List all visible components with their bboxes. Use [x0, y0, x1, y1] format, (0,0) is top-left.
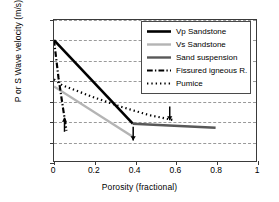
arrow-up-low-porosity — [62, 118, 67, 132]
x-axis-tick-label: 0 — [38, 166, 68, 175]
legend-label: Vp Sandstone — [176, 27, 226, 36]
x-axis-tick-label: 0.4 — [120, 166, 150, 175]
legend-item[interactable]: Sand suspension — [146, 51, 247, 64]
legend-item[interactable]: Pumice — [146, 77, 247, 90]
legend-label: Fissured igneous R. — [176, 66, 247, 75]
legend-label: Sand suspension — [176, 53, 237, 62]
legend-swatch-line-icon — [146, 26, 172, 37]
x-axis-tick — [258, 161, 259, 165]
x-axis-tick — [217, 161, 218, 165]
legend-item[interactable]: Vs Sandstone — [146, 38, 247, 51]
x-axis-title: Porosity (fractional) — [0, 182, 279, 192]
legend-label: Vs Sandstone — [176, 40, 226, 49]
legend-item[interactable]: Vp Sandstone — [146, 25, 247, 38]
legend-swatch-line-icon — [146, 52, 172, 63]
legend: Vp SandstoneVs SandstoneSand suspensionF… — [141, 21, 251, 94]
legend-swatch-line-icon — [146, 78, 172, 89]
series-line-sand-suspension — [133, 124, 216, 128]
chart-figure: P or S Wave velocity (m/s) Porosity (fra… — [0, 0, 279, 202]
x-axis-tick-label: 0.2 — [79, 166, 109, 175]
x-axis-tick — [54, 161, 55, 165]
series-line-fissured-igneous-r — [54, 40, 67, 131]
legend-swatch-line-icon — [146, 39, 172, 50]
x-axis-tick — [176, 161, 177, 165]
x-axis-tick-label: 0.6 — [160, 166, 190, 175]
legend-item[interactable]: Fissured igneous R. — [146, 64, 247, 77]
arrow-down-vs-sandstone-end — [131, 127, 136, 141]
x-axis-tick — [136, 161, 137, 165]
x-axis-tick-label: 0.8 — [201, 166, 231, 175]
legend-label: Pumice — [176, 79, 203, 88]
x-axis-tick-label: 1 — [242, 166, 272, 175]
y-axis-title: P or S Wave velocity (m/s) — [13, 0, 23, 121]
x-axis-tick — [95, 161, 96, 165]
legend-swatch-line-icon — [146, 65, 172, 76]
